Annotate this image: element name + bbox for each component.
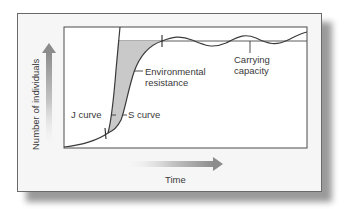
environmental-resistance-label-2: resistance [145,77,188,88]
carrying-capacity-label-2: capacity [234,65,269,76]
environmental-resistance-label-1: Environmental [145,66,206,77]
x-axis-arrow [130,157,223,171]
x-axis-label: Time [165,174,186,185]
y-axis-label: Number of individuals [30,58,41,150]
s-curve-label: S curve [128,109,160,120]
j-curve-label: J curve [71,109,102,120]
y-axis-arrow [42,43,56,142]
carrying-capacity-label-1: Carrying [234,54,270,65]
population-growth-diagram: J curve S curve Environmental resistance… [0,0,344,209]
